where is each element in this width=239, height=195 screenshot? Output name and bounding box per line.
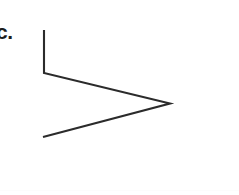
polyline-chart bbox=[0, 0, 239, 195]
baseline-rule bbox=[0, 190, 239, 191]
angled-polyline-path bbox=[43, 30, 170, 137]
figure-panel: c. bbox=[0, 0, 239, 195]
